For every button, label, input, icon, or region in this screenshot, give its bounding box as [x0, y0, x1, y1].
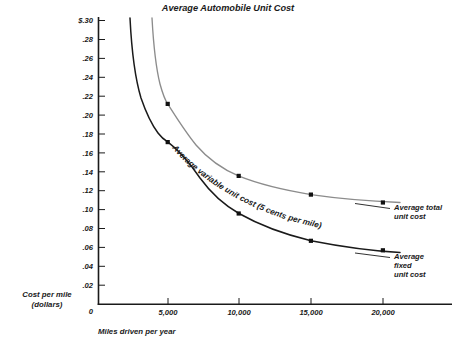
- fixed-cost-leader-line: [355, 253, 390, 258]
- average-total-unit-cost-curve: [152, 18, 400, 203]
- fixed-cost-data-points: [166, 140, 385, 252]
- y-tick-marks: [99, 21, 106, 286]
- y-tick-label: .28: [82, 35, 93, 44]
- y-tick-label: .16: [82, 149, 93, 158]
- x-axis-title: Miles driven per year: [98, 327, 177, 336]
- y-tick-label: .04: [82, 262, 93, 271]
- fixed-cost-annotation-line3: unit cost: [394, 270, 426, 279]
- y-tick-label: .14: [82, 168, 93, 177]
- x-tick-labels: 5,000 10,000 15,000 20,000: [158, 308, 395, 317]
- total-cost-annotation-line2: unit cost: [394, 212, 426, 221]
- x-tick-label: 20,000: [370, 308, 395, 317]
- total-cost-data-points: [166, 102, 385, 205]
- x-tick-label: 15,000: [299, 308, 323, 317]
- y-tick-label: .26: [82, 54, 93, 63]
- y-tick-label: .18: [82, 130, 93, 139]
- y-tick-label: .22: [82, 92, 93, 101]
- y-axis-title-line1: Cost per mile: [22, 290, 72, 299]
- average-fixed-unit-cost-curve: [130, 18, 400, 253]
- y-tick-label: .24: [82, 73, 93, 82]
- x-tick-label: 5,000: [158, 308, 178, 317]
- x-tick-label: 10,000: [227, 308, 251, 317]
- y-tick-labels: $.30 .28 .26 .24 .22 .20 .18 .16 .14 .12…: [77, 16, 94, 315]
- fixed-cost-annotation-line2: fixed: [394, 261, 412, 270]
- data-point: [237, 174, 241, 178]
- y-tick-label: .12: [82, 186, 93, 195]
- y-tick-label: 0: [89, 307, 94, 316]
- data-point: [166, 140, 170, 144]
- average-automobile-unit-cost-chart: Average Automobile Unit Cost $.30 .: [0, 0, 457, 341]
- y-tick-label: .08: [82, 224, 93, 233]
- chart-page: Average Automobile Unit Cost $.30 .: [0, 0, 457, 341]
- y-tick-label: .06: [82, 243, 93, 252]
- y-axis-title-line2: (dollars): [32, 300, 63, 309]
- chart-title: Average Automobile Unit Cost: [161, 3, 295, 13]
- y-tick-label: .20: [82, 111, 93, 120]
- y-tick-label: $.30: [77, 16, 94, 25]
- y-tick-label: .10: [82, 205, 93, 214]
- data-point: [309, 239, 313, 243]
- data-point: [381, 200, 385, 204]
- x-tick-marks: [168, 298, 383, 304]
- fixed-cost-annotation-line1: Average: [393, 252, 425, 261]
- data-point: [309, 193, 313, 197]
- total-cost-annotation-line1: Average total: [393, 203, 443, 212]
- data-point: [166, 102, 170, 106]
- data-point: [381, 248, 385, 252]
- y-tick-label: .02: [82, 281, 93, 290]
- data-point: [237, 211, 241, 215]
